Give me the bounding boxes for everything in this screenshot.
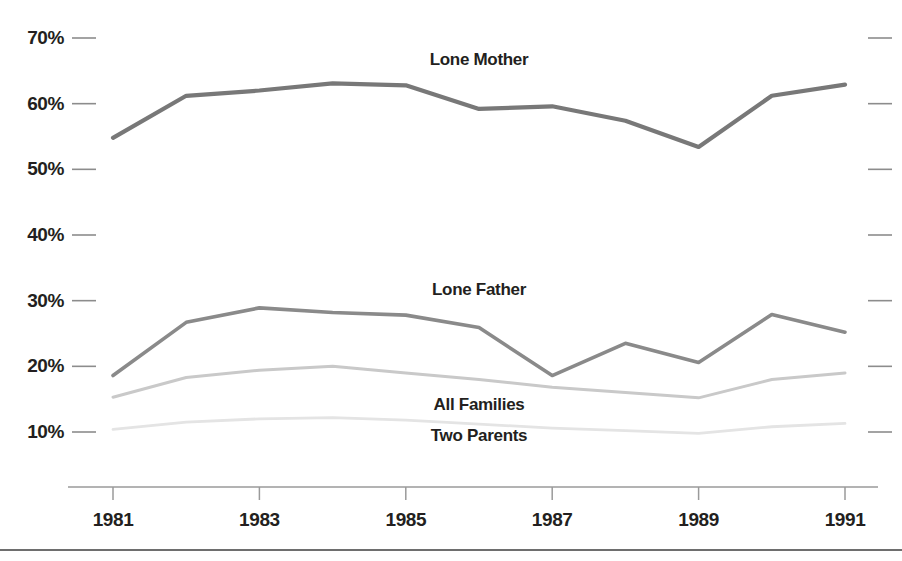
x-axis-tick-label: 1987 [532,509,573,531]
series-label-all-families: All Families [434,395,525,415]
x-axis-tick-label: 1981 [93,509,134,531]
x-axis-tick-label: 1989 [678,509,719,531]
series-line-lone-father [113,308,845,376]
x-axis-tick-label: 1983 [239,509,280,531]
chart-container: 70%60%50%40%30%20%10% 198119831985198719… [0,0,902,561]
x-axis-tick-label: 1985 [385,509,426,531]
series-line-all-families [113,366,845,398]
series-label-lone-mother: Lone Mother [430,50,529,70]
y-axis-tick-label: 30% [8,290,64,312]
y-axis-tick-label: 40% [8,224,64,246]
y-axis-tick-label: 20% [8,355,64,377]
x-axis-tick-label: 1991 [825,509,866,531]
y-axis-tick-label: 50% [8,158,64,180]
y-axis-tick-label: 70% [8,27,64,49]
y-axis-tick-label: 60% [8,93,64,115]
series-line-lone-mother [113,83,845,147]
y-axis-tick-label: 10% [8,421,64,443]
series-label-two-parents: Two Parents [431,426,528,446]
bottom-rule [0,549,902,551]
series-label-lone-father: Lone Father [432,280,526,300]
